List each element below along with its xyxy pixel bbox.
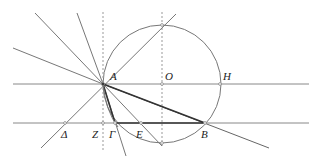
point-bottom [161, 142, 164, 145]
line-through-a-3 [77, 13, 103, 84]
label-delta: Δ [60, 128, 67, 140]
point-z [102, 122, 105, 125]
geometry-diagram: A O H Δ Z Γ E B [0, 0, 319, 156]
label-e: E [135, 128, 143, 140]
point-o [161, 83, 164, 86]
point-b [204, 122, 207, 125]
label-gamma: Γ [108, 128, 116, 140]
label-a: A [109, 70, 117, 82]
point-e [140, 122, 143, 125]
label-h: H [222, 70, 232, 82]
label-b: B [201, 128, 208, 140]
line-through-a-2 [35, 13, 103, 84]
point-gamma [114, 122, 117, 125]
point-top [161, 24, 164, 27]
line-through-a-1 [13, 48, 103, 84]
label-o: O [165, 70, 173, 82]
point-delta [64, 122, 67, 125]
point-h [219, 83, 222, 86]
point-a [101, 82, 104, 85]
label-z: Z [92, 128, 99, 140]
segment-a-b [103, 84, 205, 123]
